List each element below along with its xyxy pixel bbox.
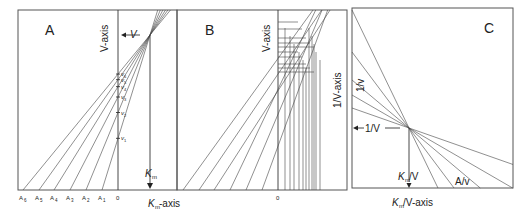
panel-a-x-tick-sub: 6 — [24, 198, 27, 203]
panel-c: C 1/v 1/V K m /V A/v K m /V-axis — [352, 8, 513, 209]
panel-a-x-tick-sub: 5 — [40, 198, 43, 203]
panel-a-v-tick-sub: 3 — [124, 97, 127, 102]
svg-text:/V: /V — [409, 171, 419, 182]
panel-b: B V-axis 1/V-axis 0 — [177, 10, 347, 201]
panel-a-v-tick-sub: 4 — [124, 87, 127, 92]
panel-a-v-arrow-icon — [121, 33, 126, 38]
panel-a: A V-axis V K m 0 A6A5A4A3A2A1 v6v5v4v3v2… — [18, 10, 180, 210]
panel-a-x-tick: A3 — [66, 195, 74, 203]
panel-b-right-axis-label: 1/V-axis — [332, 72, 343, 108]
panel-c-line — [352, 52, 454, 188]
panel-c-line — [352, 10, 438, 188]
panel-a-km-arrow-icon — [147, 183, 153, 189]
panel-a-frame — [18, 10, 177, 190]
panel-a-x-tick-sub: 4 — [55, 198, 58, 203]
svg-text:m: m — [152, 174, 157, 180]
panel-a-origin-label: 0 — [116, 195, 120, 201]
panel-a-x-tick: A2 — [82, 195, 90, 203]
panel-b-line — [183, 10, 313, 190]
panel-b-origin-label: 0 — [276, 195, 280, 201]
panel-a-km-label: K m — [145, 168, 157, 180]
panel-a-x-tick-sub: 2 — [87, 198, 90, 203]
panel-c-line — [352, 108, 513, 164]
panel-a-x-tick-main: A — [50, 195, 54, 201]
panel-c-label: C — [484, 20, 494, 36]
panel-b-line — [246, 10, 322, 190]
panel-b-y-axis-label: V-axis — [261, 25, 272, 52]
panel-a-x-tick-main: A — [82, 195, 86, 201]
panel-c-line — [352, 95, 513, 188]
panel-a-y-axis-label: V-axis — [99, 25, 110, 52]
panel-a-x-tick-main: A — [19, 195, 23, 201]
panel-c-lines — [352, 10, 513, 188]
panel-c-km-v-arrow-icon — [407, 183, 412, 188]
panel-c-x-axis-label: K m /V-axis — [392, 197, 433, 209]
panel-a-x-tick-sub: 1 — [103, 198, 106, 203]
panel-c-slope-label: A/v — [455, 176, 469, 187]
panel-a-x-tick: A5 — [35, 195, 43, 203]
panel-a-x-tick-main: A — [35, 195, 39, 201]
panel-a-x-tick-main: A — [98, 195, 102, 201]
panel-b-label: B — [205, 22, 214, 38]
enzyme-kinetics-diagram: A V-axis V K m 0 A6A5A4A3A2A1 v6v5v4v3v2… — [0, 0, 525, 216]
panel-a-x-tick-main: A — [66, 195, 70, 201]
panel-a-x-tick-sub: 3 — [71, 198, 74, 203]
panel-a-label: A — [45, 22, 55, 38]
panel-a-v-tick-sub: 2 — [124, 113, 127, 118]
panel-c-inv-v-label: 1/V — [365, 123, 380, 134]
panel-c-y-axis-label: 1/v — [355, 79, 366, 92]
panel-a-x-ticks: A6A5A4A3A2A1 — [19, 195, 106, 203]
svg-text:/V-axis: /V-axis — [403, 197, 433, 208]
svg-text:-axis: -axis — [159, 198, 180, 209]
panel-a-x-tick: A1 — [98, 195, 106, 203]
panel-a-x-tick: A4 — [50, 195, 58, 203]
panel-a-v-tick-sub: 1 — [124, 138, 127, 143]
panel-a-v-label: V — [130, 29, 138, 40]
panel-c-inv-v-arrow-icon — [353, 126, 358, 131]
panel-a-x-tick: A6 — [19, 195, 27, 203]
panel-a-v-tick-sub: 6 — [124, 74, 127, 79]
panel-a-x-axis-label: K m -axis — [148, 198, 180, 210]
panel-c-km-v-label: K m /V — [398, 171, 419, 183]
